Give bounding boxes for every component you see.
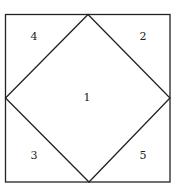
region-label-3: 3 — [31, 149, 38, 162]
region-label-5: 5 — [140, 149, 147, 162]
region-label-2: 2 — [140, 30, 147, 43]
region-label-1: 1 — [84, 91, 91, 104]
region-label-4: 4 — [31, 30, 38, 43]
square-diamond-diagram: 1 2 3 4 5 — [0, 0, 173, 190]
